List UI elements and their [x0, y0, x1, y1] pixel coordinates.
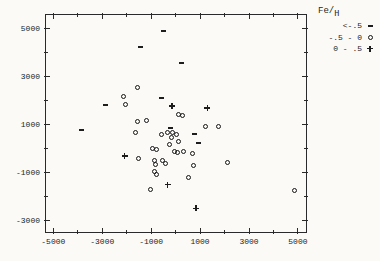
- x-axis-tick-label: 3000: [227, 237, 271, 246]
- y-axis-tick-label: -3000: [2, 216, 40, 225]
- y-axis-tick-label: 1000: [2, 120, 40, 129]
- dash-data-point: [168, 127, 173, 129]
- circle-data-point: [148, 187, 153, 192]
- circle-data-point: [186, 175, 191, 180]
- x-axis-tick: [126, 13, 127, 17]
- circle-data-point: [181, 149, 186, 154]
- x-axis-tick-label: 5000: [276, 237, 320, 246]
- circle-data-point: [176, 139, 181, 144]
- legend-symbol-cell: [362, 25, 378, 27]
- x-axis-tick: [224, 230, 225, 234]
- legend-row: -.5 - 0: [308, 32, 378, 44]
- x-axis-tick: [273, 13, 274, 17]
- x-axis-tick: [200, 228, 201, 234]
- y-axis-tick: [44, 196, 48, 197]
- plus-data-point: [122, 153, 128, 159]
- dash-marker-icon: [368, 25, 373, 27]
- x-axis-tick: [249, 13, 250, 19]
- x-axis-tick-label: 1000: [178, 237, 222, 246]
- plus-data-point: [165, 182, 171, 188]
- circle-data-point: [121, 94, 126, 99]
- x-axis-tick: [273, 230, 274, 234]
- plot-area: [45, 14, 307, 233]
- circle-data-point: [165, 130, 170, 135]
- y-axis-tick-label: 5000: [2, 24, 40, 33]
- legend-row-label: <-.5: [308, 21, 362, 30]
- circle-data-point: [133, 130, 138, 135]
- circle-data-point: [159, 132, 164, 137]
- dash-data-point: [192, 133, 197, 135]
- x-axis-tick: [224, 13, 225, 17]
- circle-data-point: [190, 151, 195, 156]
- x-axis-tick: [175, 13, 176, 17]
- circle-data-point: [163, 161, 168, 166]
- y-axis-tick: [304, 196, 308, 197]
- circle-data-point: [225, 160, 230, 165]
- y-axis-tick: [44, 124, 50, 125]
- x-axis-tick-label: -3000: [80, 237, 124, 246]
- circle-data-point: [169, 135, 174, 140]
- x-axis-tick: [297, 13, 298, 19]
- circle-data-point: [180, 113, 185, 118]
- legend-title: Fe/H: [308, 6, 378, 20]
- plus-data-point: [204, 105, 210, 111]
- y-axis-tick: [44, 28, 50, 29]
- dash-data-point: [161, 30, 166, 32]
- circle-data-point: [123, 102, 128, 107]
- circle-data-point: [154, 147, 159, 152]
- x-axis-tick: [77, 13, 78, 17]
- legend-row: 0 - .5: [308, 43, 378, 55]
- circle-data-point: [175, 150, 180, 155]
- legend: Fe/H <-.5-.5 - 00 - .5: [308, 6, 378, 55]
- x-axis-tick: [102, 13, 103, 19]
- y-axis-tick: [304, 100, 308, 101]
- legend-symbol-cell: [362, 46, 378, 52]
- dash-data-point: [159, 97, 164, 99]
- circle-data-point: [203, 124, 208, 129]
- y-axis-tick: [44, 76, 50, 77]
- circle-data-point: [144, 118, 149, 123]
- circle-data-point: [174, 132, 179, 137]
- x-axis-tick-label: -5000: [31, 237, 75, 246]
- plus-data-point: [193, 205, 199, 211]
- x-axis-tick: [77, 230, 78, 234]
- circle-data-point: [167, 142, 172, 147]
- x-axis-tick-label: -1000: [129, 237, 173, 246]
- y-axis-tick: [302, 124, 308, 125]
- plus-data-point: [169, 103, 175, 109]
- dash-data-point: [79, 129, 84, 131]
- y-axis-tick: [44, 148, 48, 149]
- y-axis-tick: [302, 172, 308, 173]
- legend-title-sub: H: [334, 9, 339, 19]
- x-axis-tick: [297, 228, 298, 234]
- circle-data-point: [136, 156, 141, 161]
- legend-row-label: 0 - .5: [308, 44, 362, 53]
- y-axis-tick: [302, 220, 308, 221]
- legend-rows: <-.5-.5 - 00 - .5: [308, 20, 378, 55]
- legend-row-label: -.5 - 0: [308, 33, 362, 42]
- x-axis-tick: [151, 228, 152, 234]
- legend-title-main: Fe/: [318, 6, 334, 16]
- y-axis-tick-label: 3000: [2, 72, 40, 81]
- legend-symbol-cell: [362, 35, 378, 40]
- dash-data-point: [138, 46, 143, 48]
- y-axis-tick: [44, 220, 50, 221]
- dash-data-point: [179, 62, 184, 64]
- dash-data-point: [196, 142, 201, 144]
- y-axis-tick: [44, 52, 48, 53]
- circle-data-point: [153, 162, 158, 167]
- y-axis-tick: [44, 172, 50, 173]
- x-axis-tick: [200, 13, 201, 19]
- y-axis-tick: [304, 148, 308, 149]
- x-axis-tick: [53, 13, 54, 19]
- circle-data-point: [154, 172, 159, 177]
- circle-data-point: [216, 124, 221, 129]
- dash-data-point: [103, 104, 108, 106]
- circle-data-point: [191, 163, 196, 168]
- y-axis-tick-label: -1000: [2, 168, 40, 177]
- circle-data-point: [135, 85, 140, 90]
- circle-data-point: [135, 119, 140, 124]
- x-axis-tick: [126, 230, 127, 234]
- y-axis-tick: [302, 76, 308, 77]
- x-axis-tick: [102, 228, 103, 234]
